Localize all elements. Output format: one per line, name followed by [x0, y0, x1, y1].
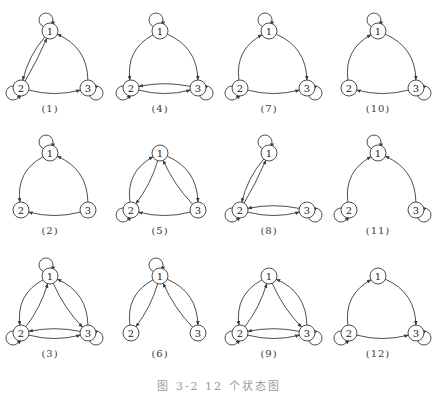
edge-3-to-2	[357, 90, 409, 93]
state-graph-panel-11: 123(11)	[328, 122, 438, 244]
svg-text:3: 3	[413, 328, 419, 339]
state-graph-panel-4: 123(4)	[110, 0, 220, 122]
edge-2-to-1	[347, 35, 371, 80]
svg-text:2: 2	[18, 328, 24, 339]
panel-label: (3)	[0, 348, 100, 359]
state-node-3: 3	[190, 325, 206, 341]
svg-text:3: 3	[413, 83, 419, 94]
state-graph-panel-10: 123(10)	[328, 0, 438, 122]
edge-2-to-1	[244, 160, 266, 203]
state-graph-panel-1: 123(1)	[0, 0, 110, 122]
panel-label: (9)	[219, 348, 319, 359]
edge-2-to-1	[347, 280, 371, 325]
edge-3-to-2	[29, 212, 81, 215]
state-graph-panel-3: 123(3)	[0, 245, 110, 367]
edge-2-to-3	[357, 335, 409, 338]
panel-label: (7)	[219, 103, 319, 114]
svg-text:1: 1	[157, 26, 163, 37]
state-node-1: 1	[261, 145, 277, 161]
state-node-2: 2	[232, 202, 248, 218]
svg-text:3: 3	[413, 205, 419, 216]
edge-2-to-1	[129, 280, 153, 325]
edge-1-to-3	[276, 34, 307, 80]
svg-text:3: 3	[85, 83, 91, 94]
panel-label: (6)	[110, 348, 210, 359]
svg-text:1: 1	[47, 271, 53, 282]
panel-label: (2)	[0, 225, 100, 236]
state-node-1: 1	[370, 268, 386, 284]
edge-1-to-2	[129, 35, 153, 80]
state-node-3: 3	[408, 202, 424, 218]
edge-1-to-3	[385, 279, 416, 325]
svg-text:2: 2	[237, 205, 243, 216]
state-node-2: 2	[232, 80, 248, 96]
panel-label: (4)	[110, 103, 210, 114]
figure-caption: 图 3-2 12 个状态图	[0, 377, 438, 393]
edge-2-to-3	[248, 90, 300, 93]
edge-3-to-1	[163, 283, 192, 327]
svg-text:1: 1	[375, 148, 381, 159]
state-node-2: 2	[13, 325, 29, 341]
svg-text:3: 3	[195, 328, 201, 339]
svg-text:1: 1	[47, 26, 53, 37]
edge-1-to-2	[238, 280, 262, 325]
state-node-3: 3	[299, 202, 315, 218]
state-node-2: 2	[341, 80, 357, 96]
svg-text:3: 3	[195, 83, 201, 94]
state-node-3: 3	[80, 325, 96, 341]
state-graph-panel-8: 123(8)	[219, 122, 329, 244]
svg-text:2: 2	[346, 328, 352, 339]
edge-1-to-2	[19, 280, 43, 325]
edge-2-to-3	[248, 212, 300, 215]
panel-label: (1)	[0, 103, 100, 114]
svg-text:3: 3	[304, 83, 310, 94]
state-node-1: 1	[261, 23, 277, 39]
edge-3-to-1	[57, 156, 88, 202]
edge-2-to-1	[129, 157, 153, 202]
svg-text:1: 1	[266, 271, 272, 282]
edge-1-to-3	[272, 283, 301, 327]
edge-3-to-1	[385, 156, 416, 202]
svg-text:3: 3	[304, 205, 310, 216]
state-graph-panel-12: 123(12)	[328, 245, 438, 367]
state-node-3: 3	[408, 80, 424, 96]
edge-1-to-3	[167, 34, 198, 80]
svg-text:3: 3	[85, 205, 91, 216]
svg-text:1: 1	[47, 148, 53, 159]
state-node-3: 3	[408, 325, 424, 341]
panel-label: (10)	[328, 103, 428, 114]
state-node-3: 3	[190, 80, 206, 96]
svg-text:2: 2	[128, 83, 134, 94]
state-node-2: 2	[123, 202, 139, 218]
edge-3-to-1	[163, 160, 192, 204]
svg-text:2: 2	[237, 83, 243, 94]
edge-3-to-2	[139, 212, 191, 215]
svg-text:2: 2	[18, 83, 24, 94]
state-graph-panel-9: 123(9)	[219, 245, 329, 367]
state-node-2: 2	[341, 202, 357, 218]
state-node-1: 1	[370, 23, 386, 39]
edge-2-to-1	[25, 38, 47, 81]
svg-text:1: 1	[266, 26, 272, 37]
state-graph-panel-7: 123(7)	[219, 0, 329, 122]
edge-1-to-2	[19, 157, 43, 202]
state-node-1: 1	[370, 145, 386, 161]
edge-3-to-2	[248, 329, 299, 332]
svg-text:2: 2	[237, 328, 243, 339]
state-node-1: 1	[152, 23, 168, 39]
svg-text:2: 2	[346, 205, 352, 216]
panel-label: (12)	[328, 348, 428, 359]
svg-text:3: 3	[304, 328, 310, 339]
state-node-1: 1	[42, 268, 58, 284]
edge-3-to-2	[29, 329, 80, 332]
edge-2-to-3	[248, 335, 300, 338]
edge-3-to-1	[57, 34, 88, 80]
state-node-3: 3	[190, 202, 206, 218]
state-graph-panel-2: 123(2)	[0, 122, 110, 244]
edge-1-to-2	[23, 37, 45, 80]
state-node-1: 1	[42, 145, 58, 161]
state-node-2: 2	[232, 325, 248, 341]
state-node-2: 2	[123, 325, 139, 341]
svg-text:3: 3	[195, 205, 201, 216]
